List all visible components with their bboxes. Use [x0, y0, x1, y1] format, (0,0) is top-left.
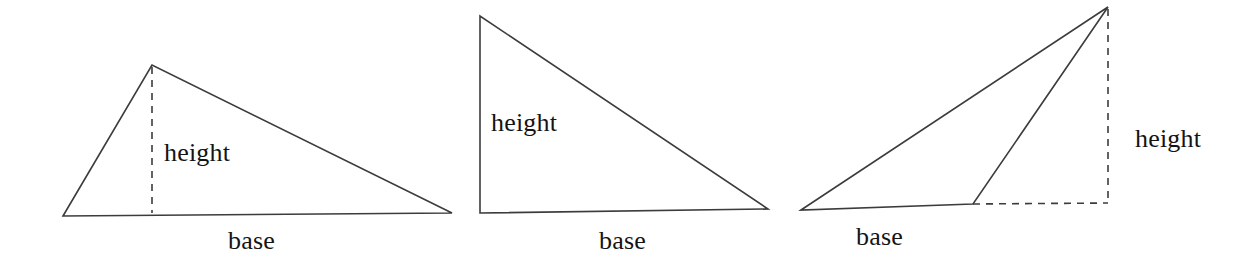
acute-triangle-base-label: base — [228, 228, 275, 254]
acute-triangle-outline — [63, 65, 452, 216]
figure-canvas — [0, 0, 1254, 263]
obtuse-triangle-base-extension-line — [973, 203, 1108, 204]
acute-triangle-height-label: height — [164, 140, 230, 166]
obtuse-triangle-outline — [801, 7, 1108, 210]
acute-triangle — [63, 65, 452, 216]
obtuse-triangle — [801, 7, 1108, 210]
right-triangle-base-label: base — [599, 228, 646, 254]
right-triangle-height-label: height — [491, 110, 557, 136]
triangle-figure: height base height base base height — [0, 0, 1254, 263]
obtuse-triangle-base-label: base — [856, 224, 903, 250]
obtuse-triangle-height-label: height — [1135, 126, 1201, 152]
